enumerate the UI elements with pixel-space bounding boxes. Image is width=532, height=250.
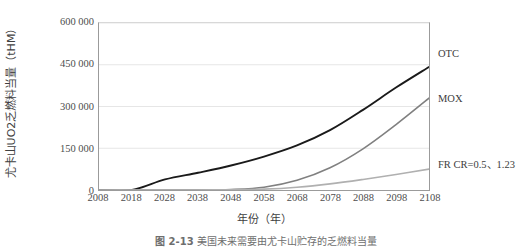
chart-svg bbox=[99, 23, 429, 190]
series-label-otc: OTC bbox=[438, 49, 459, 60]
series-line-otc bbox=[99, 67, 429, 190]
y-axis-title: 尤卡山UO2乏燃料当量（tHM） bbox=[0, 0, 24, 200]
figure-caption: 图 2-13 美国未来需要由尤卡山贮存的乏燃料当量 bbox=[0, 236, 532, 250]
series-label-fr-cr: FR CR=0.5、1.23 bbox=[438, 160, 515, 171]
figure-container: 尤卡山UO2乏燃料当量（tHM） 0150 000300 000450 0006… bbox=[0, 0, 532, 250]
y-axis-tick-labels: 0150 000300 000450 000600 000 bbox=[28, 0, 94, 250]
gridlines bbox=[99, 23, 429, 148]
y-axis-tick-label: 450 000 bbox=[32, 59, 94, 70]
x-axis-tick-label: 2108 bbox=[410, 193, 450, 204]
figure-caption-text: 美国未来需要由尤卡山贮存的乏燃料当量 bbox=[197, 236, 377, 247]
x-axis-tick-labels: 2008201820282038204820582068207820882098… bbox=[98, 193, 430, 209]
y-axis-tick-label: 600 000 bbox=[32, 17, 94, 28]
figure-caption-number: 图 2-13 bbox=[155, 236, 194, 247]
series-lines bbox=[99, 67, 429, 190]
y-axis-tick-label: 300 000 bbox=[32, 101, 94, 112]
y-axis-tick-label: 150 000 bbox=[32, 144, 94, 155]
plot-area bbox=[98, 22, 430, 191]
y-axis-title-text: 尤卡山UO2乏燃料当量（tHM） bbox=[7, 22, 18, 178]
x-axis-title: 年份（年） bbox=[98, 210, 430, 226]
series-label-mox: MOX bbox=[438, 94, 463, 105]
